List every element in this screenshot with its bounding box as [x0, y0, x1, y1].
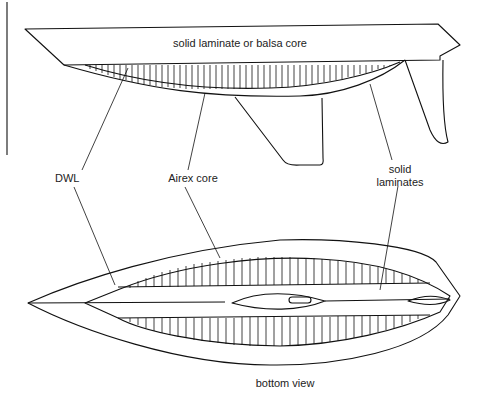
- solid-laminates-line2: laminates: [372, 176, 428, 189]
- solid-laminates-callout: solid laminates: [372, 163, 428, 189]
- side-view-label: solid laminate or balsa core: [160, 37, 320, 50]
- leader-lines: [74, 68, 398, 290]
- rudder: [405, 60, 448, 144]
- centreline: [28, 302, 225, 303]
- airex-hatch-side: [90, 65, 390, 89]
- hull-construction-diagram: solid laminate or balsa core DWL Airex c…: [0, 0, 483, 409]
- airex-hatch-bottom: [130, 257, 418, 346]
- keel-slot: [289, 297, 311, 303]
- airex-core-callout: Airex core: [163, 172, 223, 185]
- solid-laminates-line1: solid: [372, 163, 428, 176]
- centreline-aft: [325, 299, 450, 301]
- hull-drawing: [0, 0, 483, 409]
- fin-keel: [235, 97, 323, 165]
- bottom-view-label: bottom view: [250, 377, 320, 390]
- dwl-callout: DWL: [55, 172, 79, 185]
- rudder-footprint: [408, 296, 450, 304]
